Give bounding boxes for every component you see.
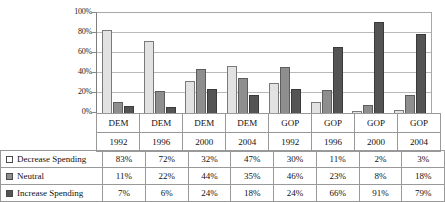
bar-group-dem-1992 (97, 13, 139, 113)
legend-entry-0: Decrease Spending (1, 151, 103, 168)
legend-swatch-icon-1 (6, 173, 13, 180)
category-party-0: DEM (97, 114, 140, 133)
bar-gop-1996-series-0 (311, 102, 321, 113)
bar-gop-1992-series-0 (269, 83, 279, 113)
bar-dem-2000-series-0 (185, 81, 195, 113)
bar-gop-2000-series-2 (374, 22, 384, 113)
table-cell-s1-c2: 44% (188, 168, 231, 185)
table-cell-s1-c1: 22% (145, 168, 188, 185)
table-row: Neutral11%22%44%35%46%23%8%18% (1, 168, 445, 185)
bar-gop-1996-series-2 (333, 47, 343, 113)
category-party-6: GOP (355, 114, 398, 133)
y-tick-label-40: 40% (56, 68, 92, 76)
plot-region: 100% 80% 60% 40% 20% 0% (0, 0, 441, 128)
table-cell-s2-c2: 24% (188, 185, 231, 202)
legend-label-0: Decrease Spending (17, 154, 86, 164)
category-year-6: 2000 (355, 133, 398, 152)
table-cell-s0-c4: 30% (274, 151, 317, 168)
bar-gop-1996-series-1 (322, 90, 332, 113)
bar-groups (97, 13, 431, 113)
table-cell-s2-c4: 24% (274, 185, 317, 202)
bar-dem-2004-series-1 (238, 78, 248, 113)
table-cell-s2-c6: 91% (359, 185, 402, 202)
legend-entry-2: Increase Spending (1, 185, 103, 202)
bar-gop-2004-series-2 (416, 34, 426, 113)
category-year-5: 1996 (312, 133, 355, 152)
category-row-spacer-2 (0, 133, 97, 152)
category-party-5: GOP (312, 114, 355, 133)
table-row: Increase Spending7%6%24%18%24%66%91%79% (1, 185, 445, 202)
plot-area (96, 12, 432, 114)
category-year-0: 1992 (97, 133, 140, 152)
y-axis: 100% 80% 60% 40% 20% 0% (56, 0, 92, 128)
category-year-4: 1992 (269, 133, 312, 152)
table-row: Decrease Spending83%72%32%47%30%11%2%3% (1, 151, 445, 168)
bar-dem-1992-series-1 (113, 102, 123, 113)
category-year-1: 1996 (140, 133, 183, 152)
bar-group-gop-2004 (389, 13, 431, 113)
table-cell-s0-c7: 3% (402, 151, 445, 168)
y-tick-label-60: 60% (56, 48, 92, 56)
bar-dem-1992-series-0 (102, 30, 112, 113)
bar-dem-1992-series-2 (124, 106, 134, 113)
category-party-row: DEM DEM DEM DEM GOP GOP GOP GOP (0, 114, 441, 133)
table-cell-s2-c1: 6% (145, 185, 188, 202)
legend-label-2: Increase Spending (17, 188, 83, 198)
table-cell-s0-c2: 32% (188, 151, 231, 168)
table-cell-s1-c0: 11% (103, 168, 146, 185)
table-cell-s1-c3: 35% (231, 168, 274, 185)
bar-dem-2000-series-1 (196, 69, 206, 113)
table-cell-s1-c4: 46% (274, 168, 317, 185)
bar-dem-1996-series-1 (155, 91, 165, 113)
table-cell-s2-c0: 7% (103, 185, 146, 202)
table-cell-s0-c6: 2% (359, 151, 402, 168)
bar-dem-2000-series-2 (207, 89, 217, 113)
bar-gop-2000-series-1 (363, 105, 373, 113)
category-year-7: 2004 (398, 133, 441, 152)
category-year-row: 1992 1996 2000 2004 1992 1996 2000 2004 (0, 133, 441, 152)
table-cell-s0-c5: 11% (316, 151, 359, 168)
category-year-3: 2004 (226, 133, 269, 152)
legend-entry-1: Neutral (1, 168, 103, 185)
y-tick-label-100: 100% (56, 8, 92, 16)
category-party-2: DEM (183, 114, 226, 133)
y-tick-label-80: 80% (56, 28, 92, 36)
bar-gop-1992-series-1 (280, 67, 290, 113)
category-party-4: GOP (269, 114, 312, 133)
legend-swatch-icon-2 (6, 190, 13, 197)
legend-swatch-icon-0 (6, 156, 13, 163)
table-cell-s0-c1: 72% (145, 151, 188, 168)
category-row-spacer (0, 114, 97, 133)
chart-data-table: Decrease Spending83%72%32%47%30%11%2%3%N… (0, 150, 445, 202)
table-cell-s2-c3: 18% (231, 185, 274, 202)
table-cell-s0-c3: 47% (231, 151, 274, 168)
bar-group-dem-2004 (222, 13, 264, 113)
y-tick-label-20: 20% (56, 88, 92, 96)
table-cell-s2-c5: 66% (316, 185, 359, 202)
table-cell-s1-c6: 8% (359, 168, 402, 185)
category-party-3: DEM (226, 114, 269, 133)
table-cell-s1-c7: 18% (402, 168, 445, 185)
category-party-1: DEM (140, 114, 183, 133)
category-party-7: GOP (398, 114, 441, 133)
legend-label-1: Neutral (17, 171, 44, 181)
bar-group-gop-1992 (264, 13, 306, 113)
category-axis-table: DEM DEM DEM DEM GOP GOP GOP GOP 1992 199… (0, 113, 441, 152)
bar-gop-1992-series-2 (291, 89, 301, 113)
bar-dem-2004-series-0 (227, 66, 237, 113)
table-cell-s1-c5: 23% (316, 168, 359, 185)
bar-group-gop-1996 (306, 13, 348, 113)
category-year-2: 2000 (183, 133, 226, 152)
bar-dem-2004-series-2 (249, 95, 259, 113)
table-cell-s0-c0: 83% (103, 151, 146, 168)
bar-dem-1996-series-0 (144, 41, 154, 113)
bar-group-dem-2000 (181, 13, 223, 113)
table-cell-s2-c7: 79% (402, 185, 445, 202)
bar-group-dem-1996 (139, 13, 181, 113)
bar-gop-2004-series-1 (405, 95, 415, 113)
bar-group-gop-2000 (348, 13, 390, 113)
